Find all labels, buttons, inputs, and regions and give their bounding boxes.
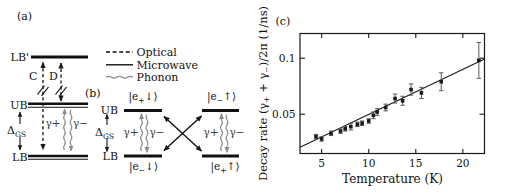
data-point (356, 123, 360, 127)
level-label-lb-prime: LB' (11, 51, 29, 64)
panel-c: (c) 51015200.050.1 Temperature (K) Decay… (256, 6, 485, 186)
data-point (384, 106, 388, 110)
phonon-wavy-down-b-left (146, 115, 148, 153)
ket-top-right: |e−↑⟩ (207, 90, 236, 105)
delta-gs-label-a: ΔGS (7, 124, 26, 139)
level-label-ub-b: UB (101, 104, 118, 117)
x-tick-label: 5 (318, 157, 325, 169)
data-point (393, 97, 397, 101)
gamma-minus-right-b: γ− (229, 126, 244, 138)
data-point (339, 129, 343, 133)
data-point (372, 114, 376, 118)
panel-a: (a) LB' C D UB LB ΔGS γ+ γ− (7, 10, 88, 164)
level-label-lb-a: LB (12, 151, 27, 164)
phonon-wavy-down-a (70, 110, 72, 151)
figure: (a) LB' C D UB LB ΔGS γ+ γ− Optica (0, 0, 507, 195)
data-point (477, 59, 481, 63)
ket-bottom-right: |e+↑⟩ (211, 160, 240, 175)
x-tick-label: 10 (362, 157, 375, 169)
figure-svg: (a) LB' C D UB LB ΔGS γ+ γ− Optica (0, 0, 507, 195)
gamma-plus-right-b: γ+ (203, 126, 218, 138)
y-tick-label: 0.1 (279, 52, 296, 64)
plot-area: 51015200.050.1 (272, 34, 484, 170)
panel-c-label: (c) (276, 15, 291, 28)
legend-phonon-line (106, 76, 133, 78)
data-point (349, 125, 353, 129)
ket-top-left: |e+↓⟩ (129, 90, 158, 105)
y-axis-label: Decay rate (γ+ + γ−)/2π (1/ns) (256, 6, 272, 181)
gamma-minus-label-a: γ− (73, 117, 88, 129)
level-label-lb-b: LB (103, 150, 118, 163)
panel-a-label: (a) (17, 10, 32, 23)
x-tick-label: 20 (456, 157, 469, 169)
data-point (401, 99, 405, 103)
legend-microwave-label: Microwave (137, 59, 199, 72)
data-point (320, 137, 324, 141)
data-point (409, 88, 413, 92)
gamma-minus-left-b: γ− (149, 126, 164, 138)
data-point (329, 132, 333, 136)
panel-b: (b) UB LB |e+↓⟩ |e−↑⟩ |e−↓⟩ |e+↑⟩ ΔGS γ+… (85, 87, 245, 175)
phonon-wavy-down-b-right (226, 115, 228, 153)
x-tick-label: 15 (409, 157, 422, 169)
arrow-c-label: C (29, 70, 37, 83)
data-point (343, 127, 347, 131)
data-point (420, 91, 424, 95)
data-point (314, 135, 318, 139)
delta-gs-label-b: ΔGS (95, 126, 114, 141)
gamma-plus-left-b: γ+ (123, 126, 138, 138)
data-point (439, 80, 443, 84)
legend-optical-label: Optical (137, 46, 178, 59)
x-axis-label: Temperature (K) (342, 172, 443, 186)
level-label-ub-a: UB (10, 99, 27, 112)
break-marks (38, 86, 67, 97)
arrow-d-label: D (49, 70, 58, 83)
y-tick-label: 0.05 (272, 108, 295, 120)
phonon-wavy-up-b-left (141, 114, 143, 151)
data-point (367, 119, 371, 123)
ket-bottom-left: |e−↓⟩ (129, 160, 158, 175)
fit-line (300, 59, 485, 147)
gamma-plus-label-a: γ+ (45, 117, 60, 129)
legend-phonon-label: Phonon (137, 71, 179, 84)
data-point (360, 121, 364, 125)
phonon-wavy-up-b-right (221, 114, 223, 151)
data-point (375, 110, 379, 114)
legend: Optical Microwave Phonon (106, 46, 198, 84)
plot-frame (300, 34, 485, 154)
panel-b-label: (b) (85, 87, 101, 100)
phonon-wavy-up-a (64, 109, 66, 150)
